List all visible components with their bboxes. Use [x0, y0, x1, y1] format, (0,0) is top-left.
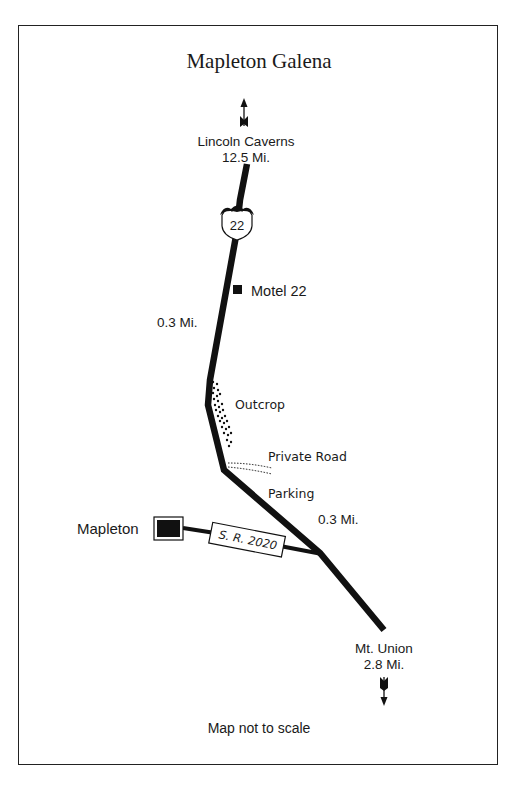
mapleton-label: Mapleton	[77, 521, 139, 537]
motel-22-marker-icon	[233, 285, 242, 294]
mapleton-town-marker-icon	[154, 517, 183, 540]
distance-label-north: 0.3 Mi.	[157, 315, 198, 331]
outcrop-label: Outcrop	[235, 397, 285, 413]
north-arrow-icon	[240, 98, 248, 127]
road-map	[0, 0, 518, 788]
scale-note: Map not to scale	[0, 720, 518, 736]
private-road-label: Private Road	[268, 449, 347, 465]
lincoln-caverns-name: Lincoln Caverns	[194, 134, 298, 150]
motel-22-label: Motel 22	[251, 283, 307, 299]
north-destination-label: Lincoln Caverns 12.5 Mi.	[194, 134, 298, 166]
mt-union-name: Mt. Union	[336, 641, 432, 657]
private-road-lines	[228, 463, 272, 474]
parking-label: Parking	[268, 486, 314, 502]
distance-label-south: 0.3 Mi.	[318, 512, 359, 528]
south-destination-label: Mt. Union 2.8 Mi.	[336, 641, 432, 673]
lincoln-caverns-distance: 12.5 Mi.	[194, 150, 298, 166]
route-22-shield-label: 22	[228, 218, 246, 234]
mt-union-distance: 2.8 Mi.	[336, 657, 432, 673]
south-arrow-icon	[380, 677, 388, 706]
